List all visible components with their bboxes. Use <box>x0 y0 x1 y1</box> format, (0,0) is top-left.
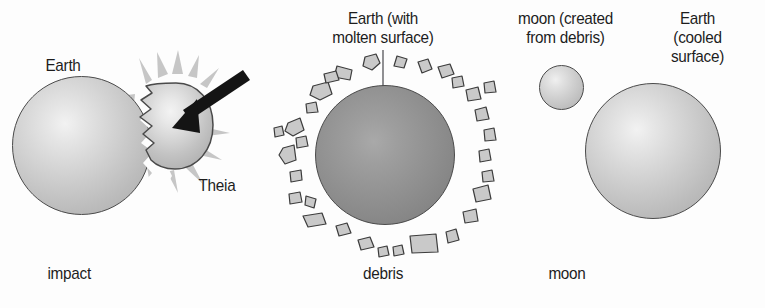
giant-impact-diagram: Earth Theia impact <box>0 0 765 308</box>
panel-impact: Earth Theia impact <box>0 0 260 308</box>
panel-moon: moon (created from debris) Earth (cooled… <box>505 0 765 308</box>
label-earth-impact: Earth <box>36 56 90 75</box>
molten-earth-sphere <box>315 85 455 225</box>
panel-debris: Earth (with molten surface) debris <box>260 0 505 308</box>
label-molten-earth: Earth (with molten surface) <box>316 9 451 47</box>
new-moon-sphere <box>539 65 584 110</box>
label-theia: Theia <box>191 176 243 195</box>
caption-moon: moon <box>441 264 693 284</box>
cooled-earth-sphere <box>585 83 721 219</box>
earth-sphere-impact <box>12 76 151 215</box>
label-new-moon: moon (created from debris) <box>509 9 622 47</box>
label-cooled-earth: Earth (cooled surface) <box>650 9 745 66</box>
caption-impact: impact <box>47 264 90 284</box>
